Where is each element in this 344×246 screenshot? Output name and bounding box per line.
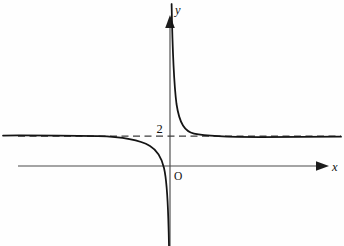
origin-label: O xyxy=(174,170,182,182)
hyperbola-figure: y x 2 O xyxy=(0,0,344,246)
y-axis-arrowhead xyxy=(165,15,175,28)
curve-branch-upper-right xyxy=(172,4,341,137)
y-axis-label: y xyxy=(173,3,181,17)
curve-branch-lower-left xyxy=(3,135,169,246)
x-axis-label: x xyxy=(331,160,338,174)
graph-canvas: y x 2 O xyxy=(0,0,344,246)
x-axis-arrowhead xyxy=(316,161,329,171)
asymptote-value-label: 2 xyxy=(157,122,163,136)
